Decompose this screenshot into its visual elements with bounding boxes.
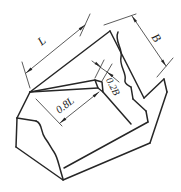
right-step [131, 79, 167, 122]
ledge-right-edge [164, 79, 167, 92]
block-right-end-edge [150, 92, 167, 143]
dim-B-arrow-top [132, 16, 137, 23]
block-left-top-edge [17, 92, 30, 118]
dim-08L-label: 0.8L [53, 94, 76, 116]
dim-B-ext-right [157, 58, 173, 77]
block-outline [16, 31, 167, 180]
wedge-block-figure: L B 0.8L 0.2B [0, 0, 181, 192]
dim-B-line [132, 16, 166, 66]
dimension-wedge-width: 0.2B [92, 60, 122, 97]
dim-L-line [26, 25, 85, 73]
dim-08L-arrow-right [93, 92, 99, 98]
dimension-wedge-length: 0.8L [36, 92, 99, 126]
dim-B-ext-left [104, 14, 136, 25]
block-bottom-left-edge [16, 147, 63, 180]
notch-left-edge [131, 87, 133, 99]
notch-front-edge [133, 99, 146, 111]
dim-02B-line [100, 67, 107, 72]
wedge-end-face [95, 80, 103, 92]
notch-right-edge [146, 111, 148, 122]
dim-B-arrow-bottom [161, 59, 166, 66]
dim-02B-arrow-upper [95, 62, 102, 67]
dim-02B-label: 0.2B [104, 76, 122, 98]
wedge-slope-edge [103, 92, 131, 124]
block-front-top-left-edge [17, 118, 36, 121]
dimension-L: L [22, 14, 90, 88]
dimension-B: B [104, 14, 173, 77]
block-left-end-edge [16, 118, 17, 147]
drawing-canvas: L B 0.8L 0.2B [0, 0, 181, 192]
dim-L-label: L [34, 33, 49, 49]
dim-L-ext-left [22, 62, 30, 88]
ledge-top-edge [144, 79, 164, 98]
